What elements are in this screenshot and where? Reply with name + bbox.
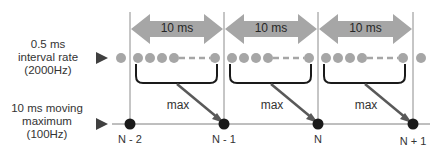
max-label: max [158,99,198,112]
window-brackets [136,64,405,83]
max-label: max [252,99,292,112]
pointer-triangle-icon [96,118,108,130]
window-label: 10 ms [150,22,204,35]
label-line: 10 ms moving [0,102,94,115]
row-pointers [96,52,108,130]
point-label: N - 2 [110,133,150,145]
window-label: 10 ms [244,22,298,35]
label-line: (100Hz) [0,128,94,141]
point-label: N [298,133,338,145]
max-label: max [346,99,386,112]
label-line: interval rate [2,51,94,64]
moving-maximum-diagram: 0.5 ms interval rate (2000Hz) 10 ms movi… [0,0,442,154]
label-line: 0.5 ms [2,38,94,51]
sample-rate-label: 0.5 ms interval rate (2000Hz) [2,38,94,77]
pointer-triangle-icon [96,52,108,64]
sample-dots [116,53,426,63]
moving-max-label: 10 ms moving maximum (100Hz) [0,102,94,141]
point-label: N - 1 [204,133,244,145]
point-label: N + 1 [393,135,433,147]
label-line: maximum [0,115,94,128]
label-line: (2000Hz) [2,64,94,77]
window-label: 10 ms [338,22,393,35]
